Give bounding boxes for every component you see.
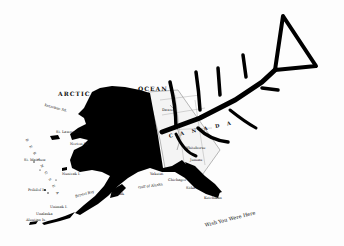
label-yakutat: Yakutat xyxy=(150,172,163,176)
label-sitka: Sitka xyxy=(186,186,195,190)
label-ketchikan: Ketchikan xyxy=(204,196,222,200)
alaska-fish-illustration xyxy=(0,0,344,246)
label-pribilof: Pribilof Is. xyxy=(28,188,46,192)
label-ocean: OCEAN xyxy=(138,85,168,92)
label-juneau: Juneau xyxy=(190,158,202,162)
label-aleutian: Aleutian Is. xyxy=(26,218,46,222)
label-kodiak: Kodiak xyxy=(112,192,124,196)
label-dawson: Dawson xyxy=(162,108,176,112)
label-st-lawrence: St. Lawrence I. xyxy=(56,130,83,134)
label-whitehorse: Whitehorse xyxy=(185,146,205,150)
label-norton-sd: Norton Sd. xyxy=(70,142,89,146)
label-chichagof: Chichagof xyxy=(168,178,186,182)
label-st-matthew: St. Matthew xyxy=(24,158,46,162)
artwork-canvas: ARCTIC OCEAN C A N A D A B E R I N G S E… xyxy=(0,0,344,246)
label-arctic: ARCTIC xyxy=(58,90,90,97)
label-unalaska: Unalaska xyxy=(36,212,53,216)
label-nunivak: Nunivak I. xyxy=(62,172,80,176)
label-unimak: Unimak I. xyxy=(50,205,67,209)
